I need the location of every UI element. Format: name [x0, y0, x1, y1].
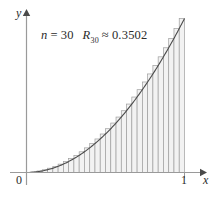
y-axis-label: y	[16, 6, 21, 21]
riemann-bar	[111, 123, 116, 172]
riemann-bar	[95, 139, 100, 173]
riemann-bar	[158, 57, 163, 173]
riemann-bar	[153, 66, 158, 173]
riemann-bar	[127, 104, 132, 172]
riemann-bar	[116, 117, 121, 172]
x-tick-label-right: 1	[181, 173, 187, 188]
riemann-bar	[137, 90, 142, 173]
riemann-bar	[142, 82, 147, 173]
annotation-n-value: 30	[61, 28, 74, 42]
riemann-bar	[132, 97, 137, 172]
y-axis-arrowhead	[23, 9, 30, 16]
riemann-annotation: n=30R30≈0.3502	[41, 28, 148, 45]
riemann-bar	[169, 38, 174, 172]
annotation-approx-sign: ≈	[102, 28, 109, 42]
annotation-n-label: n	[41, 28, 47, 42]
riemann-bar	[179, 19, 184, 173]
riemann-sum-figure: n=30R30≈0.3502 y x 0 1	[0, 0, 214, 199]
x-tick-label-origin: 0	[16, 173, 22, 188]
x-axis-label: x	[203, 173, 208, 188]
annotation-r-value: 0.3502	[112, 28, 148, 42]
riemann-bar	[163, 48, 168, 173]
riemann-bar	[148, 74, 153, 173]
riemann-bar	[100, 134, 105, 173]
riemann-bar	[106, 129, 111, 173]
annotation-r-subscript: 30	[90, 36, 98, 45]
riemann-bar	[121, 111, 126, 173]
riemann-bar	[174, 29, 179, 173]
annotation-n-equals: =	[50, 28, 57, 42]
